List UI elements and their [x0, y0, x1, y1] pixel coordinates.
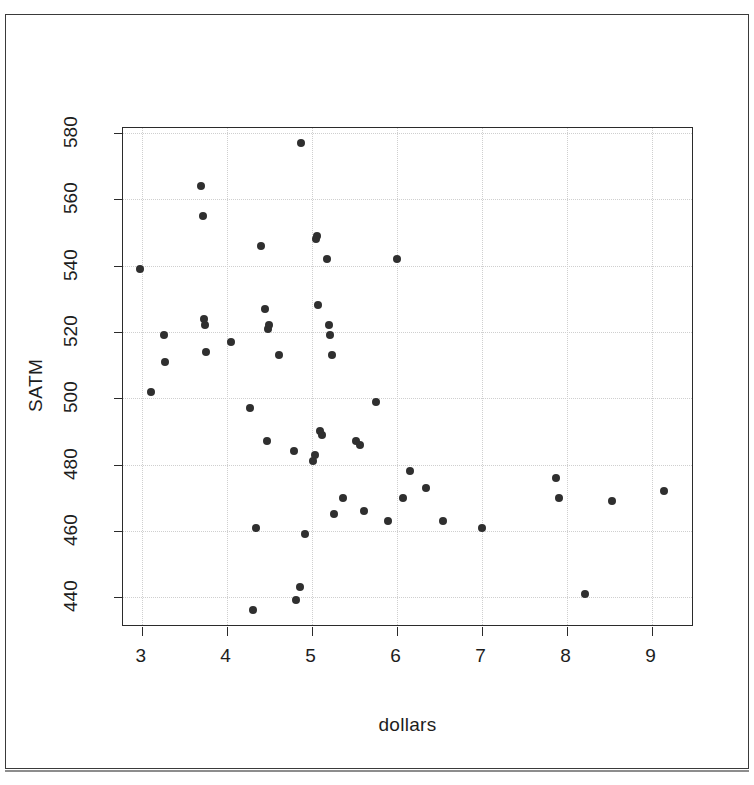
scatter-point	[160, 331, 168, 339]
x-axis-tick-labels: 3456789	[122, 645, 693, 675]
scatter-point	[290, 447, 298, 455]
scatter-point	[199, 212, 207, 220]
x-axis-tick	[227, 627, 228, 636]
scatter-point	[197, 182, 205, 190]
y-axis-tick	[114, 465, 123, 466]
scatter-point	[393, 255, 401, 263]
scatter-point	[360, 507, 368, 515]
y-axis-tick	[114, 133, 123, 134]
scatter-point	[660, 487, 668, 495]
scatter-point	[608, 497, 616, 505]
gridline-horizontal	[123, 531, 692, 532]
x-axis-tick	[482, 627, 483, 636]
scatter-point	[439, 517, 447, 525]
y-axis-tick-label: 480	[60, 438, 112, 490]
gridline-vertical	[312, 128, 313, 625]
plot-panel	[122, 127, 693, 626]
scatter-point	[202, 348, 210, 356]
gridline-vertical	[567, 128, 568, 625]
gridline-horizontal	[123, 597, 692, 598]
scatter-point	[147, 388, 155, 396]
x-axis-tick-label: 9	[645, 645, 656, 667]
gridline-horizontal	[123, 133, 692, 134]
x-axis-tick-label: 3	[135, 645, 146, 667]
y-axis-tick	[114, 199, 123, 200]
scatter-point	[384, 517, 392, 525]
x-axis-tick	[397, 627, 398, 636]
scatter-point	[323, 255, 331, 263]
y-axis-tick	[114, 597, 123, 598]
gridline-vertical	[142, 128, 143, 625]
gridline-vertical	[652, 128, 653, 625]
scatter-plot-figure-page: 440460480500520540560580 SATM 3456789 do…	[0, 0, 754, 785]
x-axis-title: dollars	[122, 714, 693, 736]
y-axis-tick	[114, 531, 123, 532]
scatter-point	[257, 242, 265, 250]
x-axis-tick	[652, 627, 653, 636]
gridline-vertical	[397, 128, 398, 625]
y-axis-tick	[114, 398, 123, 399]
scatter-point	[339, 494, 347, 502]
x-axis-tick-label: 7	[475, 645, 486, 667]
scatter-point	[297, 139, 305, 147]
y-axis-tick	[114, 332, 123, 333]
scatter-point	[330, 510, 338, 518]
scatter-point	[478, 524, 486, 532]
y-axis-tick-label: 580	[60, 106, 112, 158]
scatter-point	[249, 606, 257, 614]
scatter-point	[261, 305, 269, 313]
gridline-horizontal	[123, 199, 692, 200]
scatter-point	[311, 451, 319, 459]
gridline-horizontal	[123, 465, 692, 466]
scatter-point	[296, 583, 304, 591]
scatter-point	[201, 321, 209, 329]
x-axis-tick	[567, 627, 568, 636]
page-bottom-edge-shadow	[5, 770, 749, 772]
y-axis-title: SATM	[22, 340, 50, 430]
scatter-point	[399, 494, 407, 502]
scatter-point	[356, 441, 364, 449]
x-axis-tick-label: 5	[305, 645, 316, 667]
scatter-point	[263, 437, 271, 445]
scatter-point	[326, 331, 334, 339]
scatter-point	[325, 321, 333, 329]
scatter-point	[292, 596, 300, 604]
gridline-horizontal	[123, 266, 692, 267]
y-axis-tick-label: 460	[60, 504, 112, 556]
y-axis-tick-label: 440	[60, 570, 112, 622]
y-axis-tick-label: 500	[60, 371, 112, 423]
gridline-horizontal	[123, 398, 692, 399]
scatter-point	[252, 524, 260, 532]
scatter-point	[265, 321, 273, 329]
scatter-point	[314, 301, 322, 309]
gridline-horizontal	[123, 332, 692, 333]
scatter-point	[372, 398, 380, 406]
scatter-point	[328, 351, 336, 359]
scatter-point	[161, 358, 169, 366]
scatter-point	[581, 590, 589, 598]
gridline-vertical	[227, 128, 228, 625]
y-axis-tick-labels: 440460480500520540560580	[60, 127, 112, 626]
scatter-point	[227, 338, 235, 346]
x-axis-tick	[142, 627, 143, 636]
scatter-point	[318, 431, 326, 439]
scatter-point	[313, 232, 321, 240]
y-axis-tick	[114, 266, 123, 267]
x-axis-tick-label: 8	[560, 645, 571, 667]
scatter-point	[422, 484, 430, 492]
scatter-point	[555, 494, 563, 502]
scatter-point	[136, 265, 144, 273]
y-axis-tick-label: 540	[60, 239, 112, 291]
x-axis-tick-label: 6	[390, 645, 401, 667]
y-axis-tick-label: 560	[60, 172, 112, 224]
scatter-point	[406, 467, 414, 475]
x-axis-tick	[312, 627, 313, 636]
gridline-vertical	[482, 128, 483, 625]
x-axis-tick-label: 4	[220, 645, 231, 667]
scatter-point	[246, 404, 254, 412]
scatter-point	[552, 474, 560, 482]
scatter-point	[301, 530, 309, 538]
scatter-point	[275, 351, 283, 359]
y-axis-tick-label: 520	[60, 305, 112, 357]
